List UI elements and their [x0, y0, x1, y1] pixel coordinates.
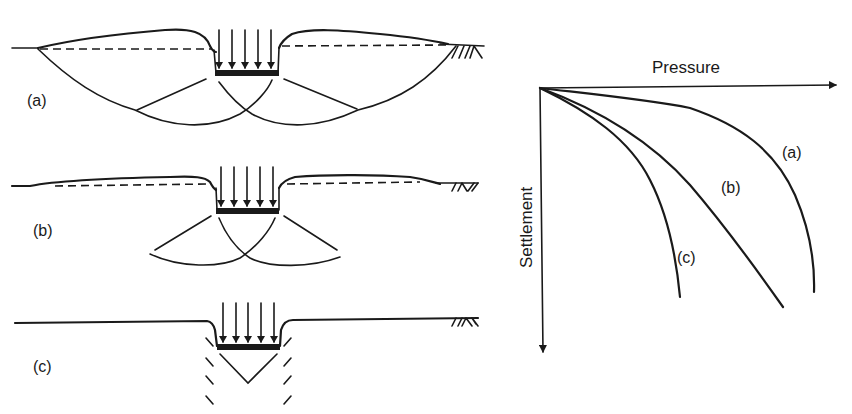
- wedge-line-right: [284, 216, 337, 250]
- footing-side-left: [214, 50, 216, 73]
- panel-label-c: (c): [33, 358, 52, 375]
- slip-surface-left: [38, 49, 272, 125]
- heave-left: [12, 177, 216, 190]
- footing: [215, 70, 279, 76]
- ground-left: [15, 321, 217, 346]
- curve-label-c: (c): [677, 249, 696, 266]
- load-arrows: [219, 30, 271, 68]
- footing: [217, 344, 280, 350]
- panel-c-punching-shear: (c): [15, 303, 478, 404]
- shear-dashes-right: [284, 338, 291, 404]
- curve-b: [540, 88, 783, 307]
- footing-side-right: [278, 48, 279, 73]
- y-axis-label: Settlement: [517, 186, 536, 268]
- load-arrows: [221, 167, 273, 206]
- wedge: [220, 354, 277, 383]
- slip-surface-right: [219, 218, 340, 265]
- ground-hatch-icon: [452, 318, 478, 326]
- slip-surface-right: [219, 46, 456, 125]
- heave-right: [279, 175, 440, 188]
- x-axis-label: Pressure: [652, 58, 720, 77]
- footing-side-left: [216, 188, 217, 210]
- original-ground-left: [55, 184, 210, 186]
- panel-label-a: (a): [27, 92, 47, 109]
- ground-hatch-icon: [452, 183, 478, 191]
- pressure-settlement-graph: Pressure Settlement (a) (b) (c): [517, 58, 836, 352]
- original-ground-right: [282, 45, 448, 46]
- ground-hatch-icon: [452, 46, 482, 58]
- load-arrows: [223, 303, 274, 342]
- curve-label-a: (a): [782, 144, 802, 161]
- wedge-line-right: [284, 79, 357, 109]
- y-axis-settlement: [540, 88, 543, 352]
- original-ground-right: [287, 182, 420, 184]
- curve-label-b: (b): [721, 179, 741, 196]
- ground-right: [280, 318, 478, 346]
- wedge-line-left: [155, 216, 211, 250]
- wedge-line-left: [137, 79, 206, 110]
- footing: [216, 208, 279, 214]
- panel-label-b: (b): [33, 222, 53, 239]
- ground-line-right: [440, 44, 484, 46]
- panel-b-local-shear: (b): [12, 167, 478, 265]
- x-axis-pressure: [540, 85, 836, 88]
- bearing-failure-diagram: (a) (b): [0, 0, 852, 414]
- panel-a-general-shear: (a): [12, 30, 484, 125]
- shear-dashes-left: [206, 338, 213, 404]
